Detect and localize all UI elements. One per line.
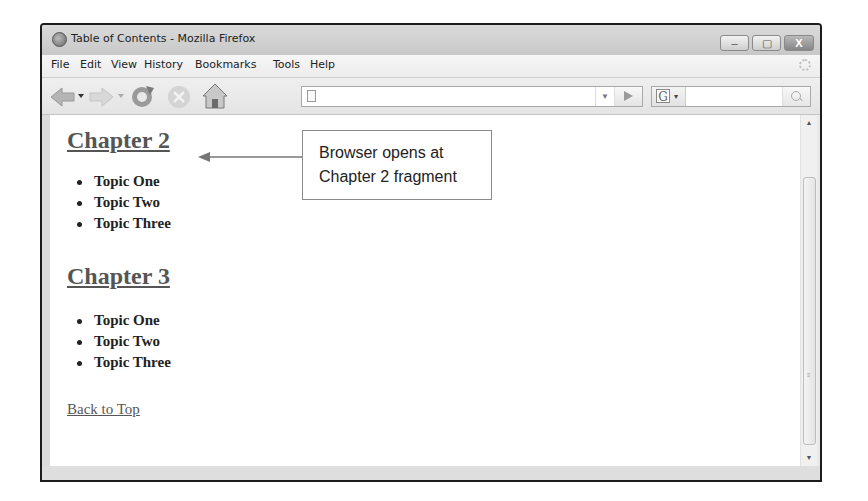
forward-arrow-icon[interactable] [88,87,114,107]
address-bar[interactable]: ▼ [301,86,643,107]
google-engine-icon: G [656,89,670,103]
callout-line-1: Browser opens at [319,141,491,165]
minimize-button[interactable]: – [720,35,749,51]
chapter-3-heading[interactable]: Chapter 3 [67,263,170,290]
activity-throbber-icon [799,59,811,71]
page-icon [307,90,316,102]
reload-icon[interactable] [130,84,156,110]
search-button-magnifier-icon[interactable] [782,87,810,106]
annotation-callout: Browser opens at Chapter 2 fragment [302,130,492,200]
go-button[interactable] [614,87,642,106]
menu-file[interactable]: File [51,58,69,71]
back-to-top-link[interactable]: Back to Top [67,401,140,418]
menu-bar: File Edit View History Bookmarks Tools H… [42,55,820,78]
url-history-dropdown-icon[interactable]: ▼ [595,87,614,106]
browser-window: Table of Contents - Mozilla Firefox – ▢ … [40,23,822,482]
chapter-3-topics: Topic One Topic Two Topic Three [77,310,171,373]
firefox-logo-icon [52,32,67,47]
chevron-down-icon: ▾ [674,88,678,105]
back-arrow-icon[interactable] [50,87,76,107]
close-button[interactable]: X [784,35,814,51]
list-item: Topic One [77,171,171,192]
list-item: Topic Three [77,213,171,234]
scrollbar-thumb[interactable]: ≡ [803,177,816,445]
maximize-button[interactable]: ▢ [752,35,781,51]
menu-tools[interactable]: Tools [273,58,300,71]
menu-bookmarks[interactable]: Bookmarks [195,58,256,71]
list-item: Topic Two [77,192,171,213]
title-bar[interactable]: Table of Contents - Mozilla Firefox – ▢ … [42,25,820,55]
search-bar[interactable]: G ▾ [651,86,811,107]
list-item: Topic One [77,310,171,331]
stop-icon[interactable] [167,85,191,109]
minimize-icon: – [721,36,748,50]
scroll-down-arrow-icon[interactable]: ▼ [801,450,817,466]
content-left-border [42,115,50,466]
chapter-2-heading[interactable]: Chapter 2 [67,127,170,154]
home-icon[interactable] [202,83,228,109]
close-icon: X [785,36,813,50]
forward-history-dropdown-icon[interactable] [118,94,124,99]
window-bottom-border [42,466,820,480]
scroll-up-arrow-icon[interactable]: ▲ [801,115,817,131]
maximize-icon: ▢ [753,36,780,50]
vertical-scrollbar[interactable]: ▲ ≡ ▼ [800,115,817,466]
navigation-toolbar: ▼ G ▾ [42,78,820,115]
back-history-dropdown-icon[interactable] [78,94,84,99]
page-content: Chapter 2 Topic One Topic Two Topic Thre… [50,115,800,466]
list-item: Topic Two [77,331,171,352]
menu-history[interactable]: History [144,58,183,71]
window-title: Table of Contents - Mozilla Firefox [71,32,255,45]
menu-view[interactable]: View [111,58,137,71]
callout-arrow-icon [198,152,302,162]
chapter-2-topics: Topic One Topic Two Topic Three [77,171,171,234]
callout-line-2: Chapter 2 fragment [319,165,491,189]
grip-icon: ≡ [807,374,812,376]
menu-help[interactable]: Help [310,58,335,71]
menu-edit[interactable]: Edit [80,58,101,71]
search-engine-selector[interactable]: G ▾ [652,87,686,106]
list-item: Topic Three [77,352,171,373]
